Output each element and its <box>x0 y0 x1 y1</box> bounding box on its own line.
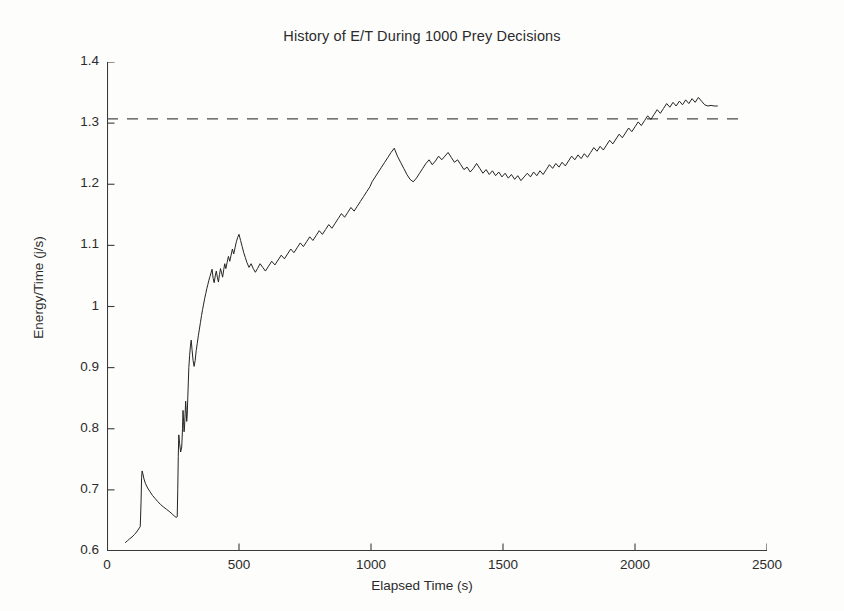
page-title: History of E/T During 1000 Prey Decision… <box>0 28 844 44</box>
x-tick-marks <box>107 544 767 551</box>
y-tick-label: 0.7 <box>53 481 99 496</box>
x-tick-label: 1000 <box>341 557 401 572</box>
plot-area: 0.60.70.80.911.11.21.31.4 05001000150020… <box>107 62 767 551</box>
x-tick-label: 2500 <box>737 557 797 572</box>
x-axis-label: Elapsed Time (s) <box>0 578 844 593</box>
x-tick-label: 2000 <box>605 557 665 572</box>
x-tick-label: 0 <box>77 557 137 572</box>
y-tick-label: 1.3 <box>53 114 99 129</box>
y-axis-label: Energy/Time (j/s) <box>31 188 46 388</box>
axis-frame <box>107 62 767 551</box>
x-tick-label: 500 <box>209 557 269 572</box>
y-tick-label: 1.1 <box>53 236 99 251</box>
y-tick-label: 0.8 <box>53 420 99 435</box>
y-tick-label: 1.4 <box>53 53 99 68</box>
chart-figure: History of E/T During 1000 Prey Decision… <box>0 0 844 611</box>
plot-svg <box>107 62 767 551</box>
y-tick-label: 0.9 <box>53 359 99 374</box>
y-tick-label: 0.6 <box>53 542 99 557</box>
x-tick-label: 1500 <box>473 557 533 572</box>
data-series-line <box>125 97 717 542</box>
y-tick-label: 1 <box>53 298 99 313</box>
y-tick-marks <box>108 62 115 551</box>
y-tick-label: 1.2 <box>53 175 99 190</box>
